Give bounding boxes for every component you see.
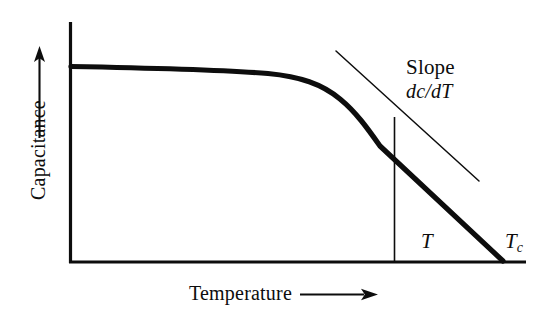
- x-axis-title: Temperature: [189, 283, 292, 303]
- plot-canvas: [0, 0, 546, 313]
- right-arrow-icon: [300, 289, 378, 300]
- critical-temperature-base: T: [505, 229, 517, 253]
- critical-temperature-subscript: c: [517, 240, 523, 255]
- slope-annotation-label: Slope: [406, 57, 455, 78]
- temperature-marker-label: T: [421, 231, 433, 252]
- slope-formula-label: dc/dT: [406, 81, 453, 101]
- capacitance-vs-temperature-figure: Slope dc/dT T Tc Capacitance Temperature: [0, 0, 546, 313]
- critical-temperature-label: Tc: [505, 231, 523, 255]
- y-axis-title: Capacitance: [28, 90, 48, 210]
